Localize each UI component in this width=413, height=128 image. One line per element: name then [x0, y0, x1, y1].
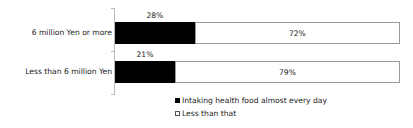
bar-segment-intaking-health-food[interactable]: 21%: [115, 61, 175, 83]
bar-segment-intaking-health-food[interactable]: 28%: [115, 22, 195, 44]
outlined-square-icon: [175, 111, 180, 116]
bar-row: 21% 79%: [115, 61, 400, 83]
y-axis-tick: [111, 8, 114, 9]
legend-item-less-than-that[interactable]: Less than that: [175, 107, 327, 120]
bar-row: 28% 72%: [115, 22, 400, 44]
filled-square-icon: [175, 98, 180, 103]
y-axis-tick: [111, 94, 114, 95]
category-label-less-than-6-million-yen: Less than 6 million Yen: [0, 67, 112, 77]
bar-value-label: 79%: [279, 68, 296, 77]
category-label-6-million-yen-or-more: 6 million Yen or more: [0, 28, 112, 38]
bar-segment-less-than-that[interactable]: 79%: [175, 61, 400, 83]
stacked-bar-chart: 6 million Yen or more Less than 6 millio…: [0, 0, 413, 128]
legend-item-label: Intaking health food almost every day: [182, 96, 327, 106]
chart-legend: Intaking health food almost every day Le…: [175, 94, 327, 120]
bar-value-label: 21%: [116, 50, 174, 60]
legend-item-label: Less than that: [182, 109, 236, 119]
bar-value-label: 28%: [116, 11, 194, 21]
legend-item-intaking-health-food[interactable]: Intaking health food almost every day: [175, 94, 327, 107]
y-axis-tick: [111, 51, 114, 52]
bar-value-label: 72%: [289, 29, 306, 38]
bar-segment-less-than-that[interactable]: 72%: [195, 22, 400, 44]
